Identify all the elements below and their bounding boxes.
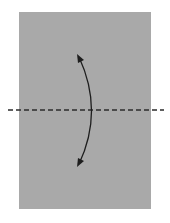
origami-diagram xyxy=(0,0,170,223)
